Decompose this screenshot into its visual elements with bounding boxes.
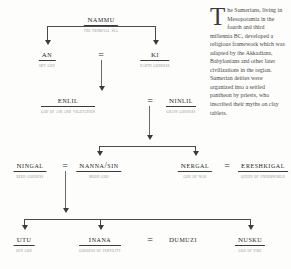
sidebar-explanatory-text: T he Sumerians, living in Mesopotamia in…: [210, 6, 286, 117]
arrowhead-ningalnanna-down: [63, 208, 69, 213]
arrowhead-to-utu: [22, 225, 28, 230]
connector-nammu-to-ki: [155, 26, 156, 41]
node-dumuzi: DUMUZI: [166, 234, 200, 246]
drop-cap-initial: T: [210, 7, 227, 26]
genealogy-diagram: NAMMU THE PRIMEVAL SEA AN SKY GOD = KI E…: [0, 0, 205, 269]
arrowhead-to-nanna: [97, 151, 103, 156]
node-ki: KI EARTH GODDESS: [140, 49, 169, 69]
node-nanna-sin: NANNA/SIN MOON GOD: [76, 160, 121, 180]
node-nanna-sin-name: NANNA/SIN: [76, 160, 121, 172]
node-nammu-name: NAMMU: [84, 14, 118, 26]
node-nammu-epithet: THE PRIMEVAL SEA: [84, 26, 118, 34]
node-inana: INANA GODDESS OF FERTILITY: [79, 234, 121, 254]
node-nusku-name: NUSKU: [235, 234, 265, 246]
arrowhead-to-enlil: [99, 86, 105, 91]
node-nanna-sin-epithet: MOON GOD: [76, 172, 121, 180]
arrowhead-to-nusku: [248, 225, 254, 230]
node-ereshkigal-epithet: QUEEN OF UNDERWORLD: [238, 172, 288, 180]
node-nusku-epithet: GOD OF FIRE: [235, 246, 265, 254]
connector-ningalnanna-down: [65, 171, 66, 210]
connector-sibling-bar-2: [99, 146, 195, 147]
node-ningal: NINGAL REED GODDESS: [13, 160, 46, 180]
node-dumuzi-epithet: [166, 245, 200, 246]
arrowhead-to-ki: [153, 40, 159, 45]
node-inana-name: INANA: [79, 234, 121, 246]
union-inana-dumuzi: =: [147, 235, 153, 245]
node-dumuzi-name: DUMUZI: [166, 234, 200, 245]
node-inana-epithet: GODDESS OF FERTILITY: [79, 246, 121, 254]
node-nammu: NAMMU THE PRIMEVAL SEA: [84, 14, 118, 34]
union-enlil-ninlil: =: [147, 96, 153, 106]
arrowhead-to-inana: [98, 225, 104, 230]
union-ningal-nanna: =: [62, 161, 68, 171]
node-an-name: AN: [39, 49, 56, 61]
arrowhead-to-an: [45, 40, 51, 45]
node-an-epithet: SKY GOD: [39, 61, 56, 69]
node-ningal-name: NINGAL: [13, 160, 46, 172]
node-ki-epithet: EARTH GODDESS: [140, 61, 169, 69]
arrowhead-enlilninlil-down: [147, 135, 153, 140]
node-ninlil-epithet: GRAIN GODDESS: [166, 107, 196, 115]
union-an-ki: =: [98, 50, 104, 60]
node-ereshkigal: ERESHKIGAL QUEEN OF UNDERWORLD: [238, 160, 288, 180]
node-ninlil: NINLIL GRAIN GODDESS: [166, 95, 196, 115]
connector-nammu-bar: [47, 26, 155, 27]
node-utu: UTU SUN GOD: [14, 234, 35, 254]
union-nergal-ereshkigal: =: [224, 161, 230, 171]
connector-enlilninlil-down: [149, 106, 150, 137]
node-ningal-epithet: REED GODDESS: [13, 172, 46, 180]
node-utu-epithet: SUN GOD: [14, 246, 35, 254]
node-utu-name: UTU: [14, 234, 35, 246]
node-enlil-epithet: GOD OF AIR AND VEGETATION: [41, 107, 95, 115]
connector-anki-to-enlil: [101, 60, 102, 88]
figure-page: NAMMU THE PRIMEVAL SEA AN SKY GOD = KI E…: [0, 0, 291, 269]
connector-sibling-bar-3: [24, 219, 250, 220]
arrowhead-to-nergal: [193, 151, 199, 156]
node-ki-name: KI: [140, 49, 169, 61]
node-nusku: NUSKU GOD OF FIRE: [235, 234, 265, 254]
node-enlil: ENLIL GOD OF AIR AND VEGETATION: [41, 95, 95, 115]
node-ereshkigal-name: ERESHKIGAL: [238, 160, 288, 172]
node-enlil-name: ENLIL: [41, 95, 95, 107]
node-an: AN SKY GOD: [39, 49, 56, 69]
node-ninlil-name: NINLIL: [166, 95, 196, 107]
connector-nammu-to-an: [47, 26, 48, 41]
